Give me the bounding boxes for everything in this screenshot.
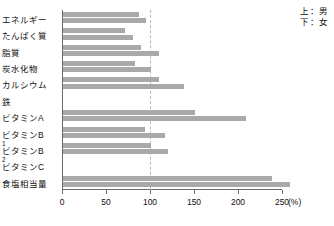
bar-row: たんぱく質 [62,28,282,44]
category-label: 脂質 [0,46,62,58]
legend-upper-male: 上：男 [300,6,328,17]
bar-row: 鉄 [62,94,282,110]
category-label: たんぱく質 [0,29,62,41]
bar-row: ビタミンC [62,159,282,175]
bar-female [63,67,151,72]
bar-female [63,149,168,154]
bar-female [63,84,184,89]
bar-female [63,133,165,138]
category-label: エネルギー [0,13,62,25]
nutrient-intake-bar-chart: 上：男 下：女 050100150200250 エネルギーたんぱく質脂質炭水化物… [0,0,334,226]
bar-female [63,51,159,56]
x-tick-label: 150 [187,197,201,207]
x-axis-unit-label: (%) [288,197,301,207]
bar-female [63,35,133,40]
category-label: 鉄 [0,95,62,107]
bar-row: カルシウム [62,77,282,93]
bar-male [63,61,135,66]
bar-male [63,110,195,115]
bar-male [63,176,272,181]
bar-row: 食塩相当量 [62,176,282,192]
chart-legend: 上：男 下：女 [300,6,328,28]
x-tick-label: 250 [275,197,289,207]
bar-female [63,182,290,187]
bar-row: ビタミンA [62,110,282,126]
bar-female [63,116,246,121]
bar-row: エネルギー [62,12,282,28]
category-label: 食塩相当量 [0,177,62,189]
category-label: カルシウム [0,78,62,90]
bar-male [63,45,141,50]
category-label: 炭水化物 [0,62,62,74]
x-tick-label: 50 [101,197,110,207]
x-tick-label: 200 [231,197,245,207]
bar-male [63,127,145,132]
bar-row: 炭水化物 [62,61,282,77]
category-label: ビタミンA [0,111,62,123]
bar-male [63,143,151,148]
bar-male [63,77,159,82]
bar-row: ビタミンB2 [62,143,282,159]
bar-female [63,18,146,23]
bar-male [63,28,125,33]
x-tick-label: 100 [143,197,157,207]
plot-area: 050100150200250 エネルギーたんぱく質脂質炭水化物カルシウム鉄ビタ… [62,10,282,190]
x-tick [282,190,283,194]
bar-male [63,12,139,17]
bar-row: ビタミンB1 [62,127,282,143]
category-label: ビタミンC [0,160,62,172]
x-tick-label: 0 [60,197,65,207]
legend-lower-female: 下：女 [300,17,328,28]
bar-row: 脂質 [62,45,282,61]
